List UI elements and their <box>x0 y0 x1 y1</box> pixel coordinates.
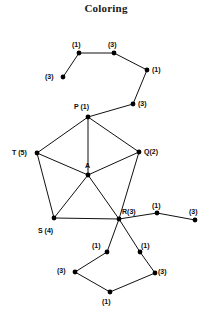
node-label-S: S (4) <box>38 227 53 234</box>
graph-edge-P-T <box>37 117 88 153</box>
graph-edge-T-A <box>37 153 88 175</box>
graph-node-S[interactable] <box>52 216 57 221</box>
graph-edge-n2-n4 <box>114 53 147 70</box>
node-label-n11: (3) <box>158 268 167 275</box>
graph-edges <box>37 53 195 292</box>
node-label-n9: (1) <box>141 242 150 249</box>
node-label-n4: (1) <box>152 66 161 73</box>
node-label-n12: (1) <box>102 298 111 305</box>
graph-node-n7[interactable] <box>193 218 198 223</box>
node-label-P: P (1) <box>74 103 89 110</box>
graph-edge-S-R <box>54 218 119 219</box>
graph-canvas <box>0 0 212 319</box>
graph-edge-n4-n5 <box>133 70 147 104</box>
node-label-n2: (3) <box>108 41 117 48</box>
graph-edge-R-n8 <box>107 219 119 252</box>
graph-node-n11[interactable] <box>153 271 158 276</box>
graph-edge-A-S <box>54 175 88 218</box>
graph-edge-P-Q <box>88 117 139 152</box>
graph-edge-n5-P <box>88 104 133 117</box>
graph-edge-n12-n11 <box>110 273 155 292</box>
graph-node-n9[interactable] <box>138 250 143 255</box>
graph-edge-T-S <box>37 153 54 218</box>
graph-edge-A-R <box>88 175 119 219</box>
graph-node-n2[interactable] <box>112 51 117 56</box>
graph-edge-n8-n10 <box>75 252 107 272</box>
graph-node-n5[interactable] <box>131 102 136 107</box>
graph-node-n12[interactable] <box>108 290 113 295</box>
graph-node-n6[interactable] <box>155 211 160 216</box>
graph-node-P[interactable] <box>86 115 91 120</box>
node-label-T: T (5) <box>12 149 27 156</box>
node-label-n6: (1) <box>152 202 161 209</box>
graph-node-n8[interactable] <box>105 250 110 255</box>
graph-node-n1[interactable] <box>77 51 82 56</box>
node-label-n10: (3) <box>57 267 66 274</box>
graph-edge-Q-A <box>88 152 139 175</box>
graph-node-n4[interactable] <box>145 68 150 73</box>
graph-node-A[interactable] <box>86 173 91 178</box>
graph-edge-n10-n12 <box>75 272 110 292</box>
node-label-n8: (1) <box>92 242 101 249</box>
node-label-n3: (3) <box>45 73 54 80</box>
graph-nodes <box>35 51 198 295</box>
node-label-n5: (3) <box>138 100 147 107</box>
graph-edge-n3-n1 <box>63 53 79 77</box>
node-label-A: A <box>85 162 90 169</box>
node-label-Q: Q(2) <box>144 148 158 155</box>
node-label-R: R(3) <box>122 208 136 215</box>
graph-node-Q[interactable] <box>137 150 142 155</box>
graph-node-n3[interactable] <box>61 75 66 80</box>
graph-node-R[interactable] <box>117 217 122 222</box>
node-label-n7: (3) <box>189 208 198 215</box>
graph-node-n10[interactable] <box>73 270 78 275</box>
graph-edge-n11-n9 <box>140 252 155 273</box>
node-label-n1: (1) <box>72 41 81 48</box>
graph-edge-n9-R <box>119 219 140 252</box>
coloring-diagram-page: Coloring (1)(3)(3)(1)(3)P (1)T (5)Q(2)AS… <box>0 0 212 319</box>
graph-node-T[interactable] <box>35 151 40 156</box>
